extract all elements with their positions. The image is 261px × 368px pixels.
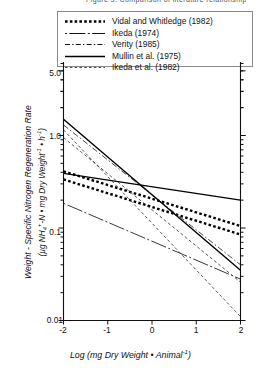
x-tick-label-2: 2 — [231, 325, 251, 335]
y-axis-title-sup1: -1 — [36, 148, 42, 153]
y-axis-title-sup2: -1 — [36, 131, 42, 136]
x-axis-title-suffix: ) — [188, 350, 191, 360]
x-axis-title: Log (mg Dry Weight • Animal-1) — [0, 348, 261, 360]
x-tick-label-neg2: -2 — [53, 325, 73, 335]
y-axis-title-units-suffix: ) — [38, 128, 47, 131]
y-axis-title: Weight - Specific Nitrogen Regeneration … — [23, 67, 51, 317]
figure-container: Figure 3. Comparison of literature relat… — [0, 0, 261, 368]
y-axis-title-supplus: + — [36, 223, 42, 227]
y-axis-title-line1: Weight - Specific Nitrogen Regeneration … — [23, 67, 34, 317]
x-tick-label-1: 1 — [186, 325, 206, 335]
x-tick-label-0: 0 — [142, 325, 162, 335]
x-axis-title-prefix: Log (mg Dry Weight • Animal — [70, 350, 183, 360]
x-tick-label-neg1: -1 — [97, 325, 117, 335]
y-axis-title-sub4: 4 — [42, 227, 48, 230]
y-axis-title-units-mid2: • h — [38, 136, 47, 148]
y-axis-title-line2: (µg NH4+-N • mg Dry Weight-1 • h-1) — [34, 67, 51, 317]
y-axis-title-units-mid: -N • mg Dry Weight — [38, 153, 47, 223]
y-axis-title-units-prefix: (µg NH — [38, 230, 47, 256]
